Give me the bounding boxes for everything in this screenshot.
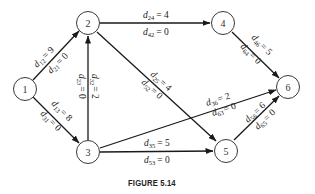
node-4: 4 xyxy=(212,12,235,35)
svg-text:2: 2 xyxy=(86,18,91,29)
edge-label-d24: d24= 4 xyxy=(143,10,169,21)
edge-label-d35: d35= 5 xyxy=(144,138,170,149)
edge-label-d23: d23= 0 xyxy=(76,74,87,99)
figure-caption: FIGURE 5.14 xyxy=(128,178,176,188)
node-5: 5 xyxy=(215,140,238,163)
node-6: 6 xyxy=(277,76,300,99)
network-diagram: d12= 9 d21= 0 d13= 8 d31= 0 d23= 0 d32= … xyxy=(0,0,315,194)
edge-3-5 xyxy=(100,151,213,152)
edge-label-d32: d32= 2 xyxy=(89,74,100,99)
svg-text:5: 5 xyxy=(224,146,229,157)
svg-text:6: 6 xyxy=(286,82,291,93)
edge-label-d42: d42= 0 xyxy=(143,27,169,38)
svg-text:3: 3 xyxy=(86,147,91,158)
edge-label-d53: d53= 0 xyxy=(144,155,170,166)
node-1: 1 xyxy=(14,78,37,101)
svg-text:4: 4 xyxy=(221,18,226,29)
svg-text:1: 1 xyxy=(23,84,28,95)
node-3: 3 xyxy=(77,141,100,164)
node-2: 2 xyxy=(77,12,100,35)
